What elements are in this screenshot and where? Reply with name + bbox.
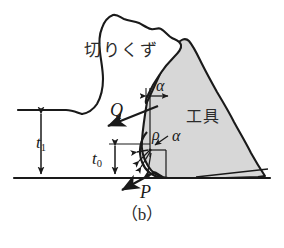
chip-label: 切りくず bbox=[84, 42, 158, 59]
tool-label: 工具 bbox=[186, 109, 220, 125]
force-Q-label: Q bbox=[110, 101, 123, 119]
depth-t1-subscript: 1 bbox=[41, 142, 46, 153]
workpiece-top-surface bbox=[18, 110, 82, 114]
force-P-label: P bbox=[140, 183, 151, 201]
angle-alpha-mid-label: α bbox=[172, 128, 180, 144]
figure-caption: （b） bbox=[0, 206, 284, 223]
nose-radius-rho-label: ρ bbox=[152, 127, 160, 143]
rake-angle-alpha-top-label: α bbox=[156, 78, 164, 94]
depth-t0-label: t0 bbox=[92, 150, 102, 169]
depth-t0-subscript: 0 bbox=[97, 158, 102, 169]
depth-t1-label: t1 bbox=[36, 134, 46, 153]
